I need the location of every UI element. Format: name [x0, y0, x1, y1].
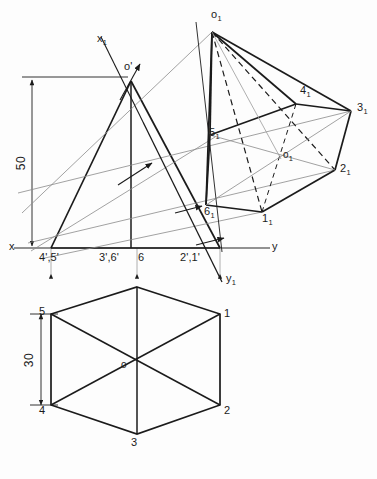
projector-upper [22, 32, 212, 213]
iso-lateral-edge-o-4 [212, 32, 296, 104]
front-view-left-edge [51, 81, 131, 248]
projector-spacer [7, 205, 206, 206]
axis-label-y1-text: y [226, 272, 232, 284]
iso-base-center-label-text: o [283, 149, 289, 160]
top-view-label-5: 5 [39, 306, 45, 317]
projector-mid [31, 137, 215, 251]
iso-vertex-label-4-sub: 1 [306, 90, 310, 99]
axis-label-y: y [272, 241, 278, 252]
front-view-group [22, 77, 220, 248]
iso-vertex-label-3-sub: 1 [363, 107, 367, 116]
projection-direction-group [7, 22, 351, 282]
iso-vertex-label-6-sub: 1 [210, 211, 214, 220]
iso-vertex-label-5: 51 [209, 127, 220, 138]
front-view-base-label-21: 2',1' [180, 252, 200, 263]
axis-label-x1: x1 [97, 33, 107, 44]
axis-label-x: x [9, 241, 15, 252]
iso-vertex-label-5-sub: 1 [215, 132, 219, 141]
iso-hidden-edge-o-2 [212, 32, 335, 170]
hexagon-outline [51, 287, 220, 434]
axis-label-y1-sub: 1 [232, 278, 236, 287]
engineering-drawing: x y x1 y1 o' 4',5' 3',6' 6 2',1' 50 30 5… [0, 0, 377, 479]
iso-vertex-label-6: 61 [204, 206, 215, 217]
top-view-label-4: 4 [39, 405, 45, 416]
axis-label-x1-text: x [97, 32, 103, 44]
iso-base-edge-3-4 [296, 104, 351, 111]
projector-long-lower [28, 170, 335, 243]
direction-arrow-mid [118, 163, 152, 185]
iso-lateral-edge-o-5 [210, 32, 212, 135]
front-view-base-label-6: 6 [138, 252, 144, 263]
iso-diagonal-5-2 [210, 135, 335, 170]
top-view-label-1: 1 [224, 308, 230, 319]
iso-vertex-label-2: 21 [340, 163, 351, 174]
iso-vertex-label-4: 41 [300, 85, 311, 96]
front-view-base-label-45: 4',5' [39, 252, 59, 263]
top-view-label-2: 2 [224, 405, 230, 416]
front-view-apex-label: o' [124, 61, 132, 72]
iso-base-center-label: o1 [283, 150, 293, 160]
iso-vertex-label-3: 31 [357, 102, 368, 113]
iso-base-edge-4-5 [210, 104, 296, 135]
axis-label-x1-sub: 1 [103, 38, 107, 47]
iso-vertex-label-2-sub: 1 [346, 168, 350, 177]
iso-diagonal-6-3 [206, 111, 351, 205]
projector-long-bottom [40, 212, 262, 259]
dimension-label-50: 50 [14, 156, 28, 170]
iso-lateral-edge-o-3 [212, 32, 351, 111]
dimension-label-30: 30 [22, 353, 36, 367]
iso-apex-label-sub: 1 [217, 14, 221, 23]
isometric-view-group [206, 32, 351, 212]
iso-apex-label: o1 [211, 9, 222, 20]
iso-vertex-label-1: 11 [262, 213, 273, 224]
front-view-base-label-36: 3',6' [99, 252, 119, 263]
iso-base-center-label-sub: 1 [289, 154, 293, 163]
top-view-label-3: 3 [131, 437, 137, 448]
drawing-canvas [0, 0, 377, 479]
axis-label-y1: y1 [226, 273, 236, 284]
iso-vertex-label-1-sub: 1 [268, 218, 272, 227]
top-view-group [30, 248, 220, 434]
x1-axis-line [101, 37, 143, 122]
top-view-center-label: o [121, 360, 127, 370]
